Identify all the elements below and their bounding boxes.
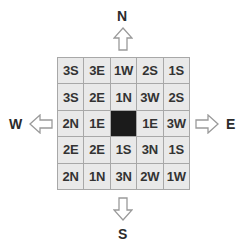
grid-cell-r0-c2[interactable]: 1W (111, 58, 136, 83)
grid-cell-r4-c4[interactable]: 1W (164, 164, 189, 189)
arrow-left-icon (29, 114, 53, 134)
grid-cell-r3-c2[interactable]: 1S (111, 137, 136, 162)
grid-cell-r1-c2[interactable]: 1N (111, 84, 136, 109)
grid-cell-r1-c1[interactable]: 2E (84, 84, 109, 109)
grid-cell-r3-c1[interactable]: 2E (84, 137, 109, 162)
grid-cell-r4-c2[interactable]: 3N (111, 164, 136, 189)
goal-cell[interactable] (111, 111, 136, 136)
grid-cell-r2-c0[interactable]: 2N (58, 111, 83, 136)
arrow-up-icon (113, 27, 133, 51)
grid-cell-r3-c0[interactable]: 2E (58, 137, 83, 162)
arrow-right-icon (195, 114, 219, 134)
arrow-down-icon (113, 197, 133, 221)
east-label: E (226, 117, 235, 131)
north-label: N (117, 9, 127, 23)
grid-cell-r1-c0[interactable]: 3S (58, 84, 83, 109)
grid-cell-r2-c4[interactable]: 3W (164, 111, 189, 136)
grid-cell-r4-c1[interactable]: 1N (84, 164, 109, 189)
grid-cell-r3-c4[interactable]: 1S (164, 137, 189, 162)
grid-cell-r0-c0[interactable]: 3S (58, 58, 83, 83)
grid-cell-r4-c0[interactable]: 2N (58, 164, 83, 189)
grid-cell-r3-c3[interactable]: 3N (137, 137, 162, 162)
grid-cell-r0-c1[interactable]: 3E (84, 58, 109, 83)
grid-cell-r2-c1[interactable]: 1E (84, 111, 109, 136)
grid-cell-r1-c3[interactable]: 3W (137, 84, 162, 109)
grid-cell-r1-c4[interactable]: 2S (164, 84, 189, 109)
grid-cell-r4-c3[interactable]: 2W (137, 164, 162, 189)
south-label: S (118, 227, 127, 241)
west-label: W (9, 117, 22, 131)
grid-cell-r0-c3[interactable]: 2S (137, 58, 162, 83)
puzzle-grid: 3S 3E 1W 2S 1S 3S 2E 1N 3W 2S 2N 1E 1E 3… (57, 57, 190, 190)
grid-cell-r0-c4[interactable]: 1S (164, 58, 189, 83)
grid-cell-r2-c3[interactable]: 1E (137, 111, 162, 136)
